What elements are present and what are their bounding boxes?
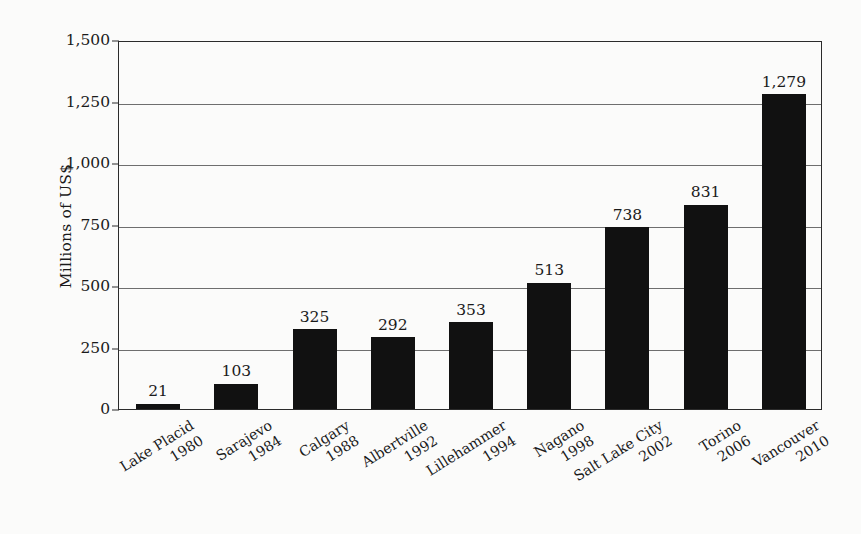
bar-value-label: 292 (378, 318, 408, 334)
bar-value-label: 103 (222, 364, 252, 380)
bar (762, 94, 806, 409)
bar (371, 337, 415, 409)
bar-value-label: 353 (456, 303, 486, 319)
bar-value-label: 21 (148, 384, 168, 400)
bar (527, 283, 571, 409)
x-axis-tick-label: Vancouver2010 (749, 416, 832, 487)
bar (684, 205, 728, 409)
bar (293, 329, 337, 409)
x-axis-tick-label: Calgary1988 (296, 416, 363, 477)
bar (136, 404, 180, 409)
y-axis-tick-label: 1,500 (40, 33, 110, 49)
y-axis-tick-label: 750 (40, 218, 110, 234)
x-axis-tick-label: Sarajevo1984 (212, 416, 285, 480)
plot-area: 211033252923535137388311,279 (118, 41, 822, 410)
y-axis-tick-label: 1,000 (40, 156, 110, 172)
x-axis-tick-label: Lillehammer1994 (423, 416, 520, 495)
y-axis-tick-label: 250 (40, 341, 110, 357)
bar-chart: Millions of US$ 02505007501,0001,2501,50… (0, 0, 861, 534)
bar (449, 322, 493, 409)
bar (605, 227, 649, 409)
bar-value-label: 738 (613, 208, 643, 224)
y-axis-tick-label: 0 (40, 402, 110, 418)
x-axis-tick-label: Lake Placid1980 (116, 416, 206, 491)
y-axis-tick-label: 500 (40, 279, 110, 295)
gridline (119, 165, 821, 166)
y-axis-tick-label: 1,250 (40, 95, 110, 111)
x-axis-tick-label: Albertville1992 (358, 416, 441, 486)
bar-value-label: 513 (534, 263, 564, 279)
bar-value-label: 831 (691, 185, 721, 201)
bar-value-label: 1,279 (762, 75, 806, 91)
bar-value-label: 325 (300, 310, 330, 326)
x-axis-tick-label: Torino2006 (696, 416, 754, 471)
gridline (119, 104, 821, 105)
bar (214, 384, 258, 409)
